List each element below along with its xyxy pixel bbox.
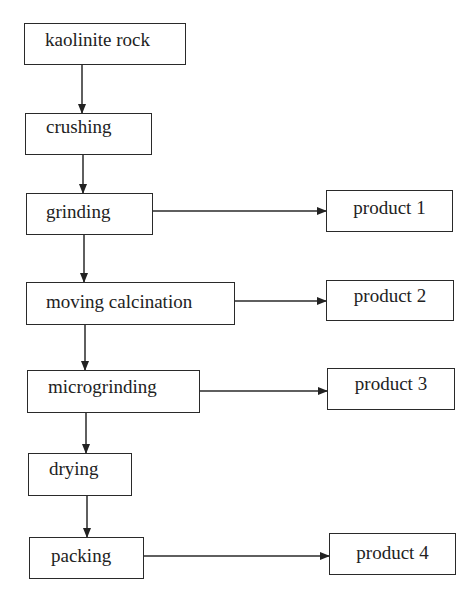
step-drying: drying — [28, 453, 132, 496]
step-crushing: crushing — [25, 113, 152, 155]
step-microgrinding: microgrinding — [27, 370, 200, 413]
step-grinding: grinding — [26, 193, 153, 235]
step-label: microgrinding — [28, 377, 199, 396]
step-label: packing — [30, 546, 143, 565]
product-1: product 1 — [326, 190, 453, 232]
step-label: moving calcination — [27, 292, 234, 311]
product-label: product 3 — [328, 374, 454, 393]
step-label: drying — [29, 459, 131, 478]
step-label: crushing — [26, 117, 151, 136]
step-kaolinite-rock: kaolinite rock — [24, 23, 186, 65]
step-moving-calcination: moving calcination — [26, 282, 235, 325]
product-2: product 2 — [326, 280, 454, 321]
product-label: product 1 — [327, 198, 452, 217]
product-label: product 2 — [327, 286, 453, 305]
step-label: grinding — [27, 202, 152, 221]
product-4: product 4 — [329, 533, 456, 575]
step-packing: packing — [29, 537, 144, 579]
product-label: product 4 — [330, 543, 455, 562]
product-3: product 3 — [327, 368, 455, 410]
step-label: kaolinite rock — [25, 30, 185, 49]
